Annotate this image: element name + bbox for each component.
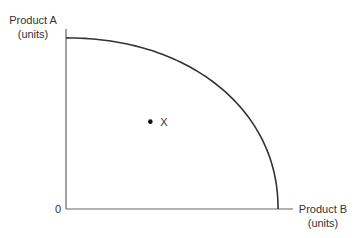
- origin-label: 0: [55, 203, 61, 215]
- point-x: [148, 119, 153, 124]
- x-axis-label-line1: Product B: [299, 203, 347, 215]
- y-axis-label-line1: Product A: [9, 14, 57, 26]
- x-axis-label-line2: (units): [308, 217, 339, 229]
- y-axis-label-line2: (units): [18, 28, 49, 40]
- ppf-curve: [66, 38, 278, 209]
- ppf-chart: X Product A (units) Product B (units) 0: [0, 0, 358, 238]
- point-label-x: X: [160, 116, 168, 128]
